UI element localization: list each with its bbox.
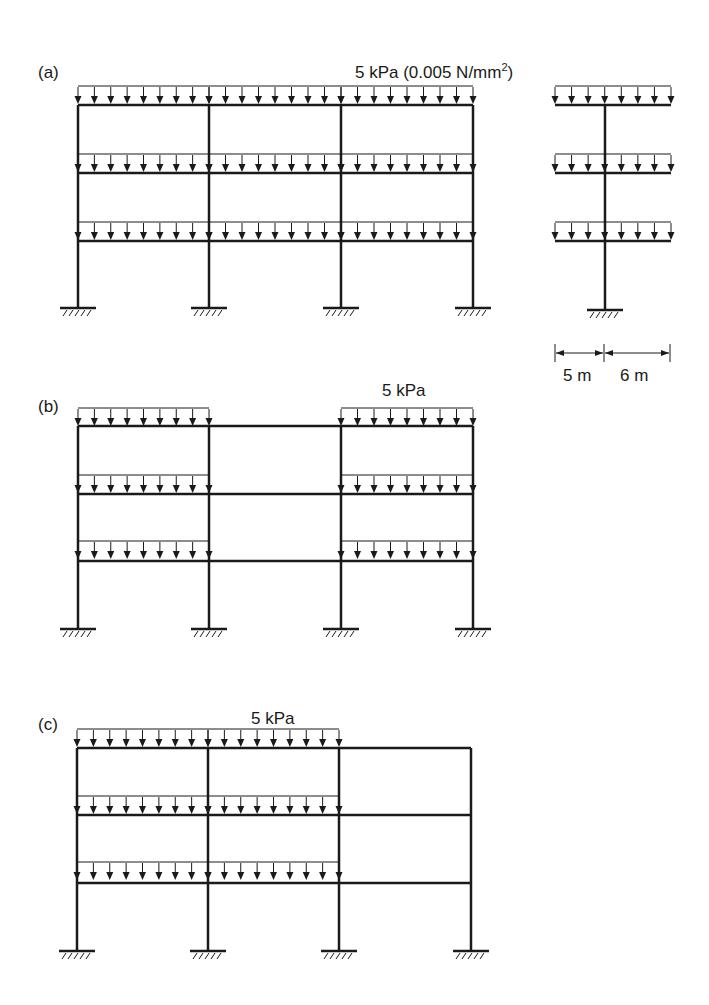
panel-b-load-label: 5 kPa <box>382 381 426 400</box>
dimension-line <box>555 344 670 362</box>
panel-c-load-label: 5 kPa <box>251 709 295 728</box>
side-view-frame <box>552 86 675 318</box>
panel-c-frame <box>59 729 489 959</box>
dimension-5m: 5 m <box>563 366 591 385</box>
panel-a-label: (a) <box>38 63 59 82</box>
panel-c-label: (c) <box>38 715 58 734</box>
panel-b-label: (b) <box>38 397 59 416</box>
frame-loading-diagram: (a) (b) (c) 5 kPa (0.005 N/mm2) 5 kPa 5 … <box>0 0 709 1005</box>
panel-a-load-label: 5 kPa (0.005 N/mm2) <box>355 61 513 82</box>
panel-a-frame <box>60 86 491 316</box>
panel-b-frame <box>60 408 491 637</box>
dimension-6m: 6 m <box>620 366 648 385</box>
